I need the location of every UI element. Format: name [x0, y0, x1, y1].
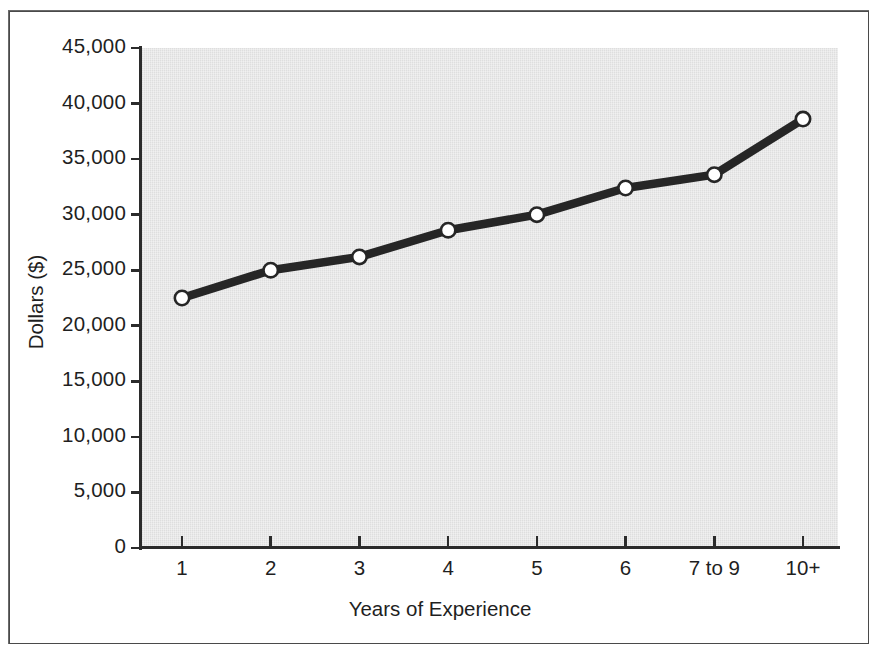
- data-point-marker: [707, 167, 721, 181]
- data-point-marker: [441, 223, 455, 237]
- line-chart: 05,00010,00015,00020,00025,00030,00035,0…: [0, 0, 880, 661]
- chart-page: 05,00010,00015,00020,00025,00030,00035,0…: [0, 0, 880, 661]
- data-series-layer: [0, 0, 880, 661]
- series-markers: [175, 112, 810, 305]
- data-point-marker: [175, 291, 189, 305]
- data-point-marker: [618, 181, 632, 195]
- data-point-marker: [530, 207, 544, 221]
- data-point-marker: [796, 112, 810, 126]
- data-point-marker: [264, 263, 278, 277]
- data-point-marker: [352, 250, 366, 264]
- x-axis-title: Years of Experience: [0, 597, 880, 621]
- y-axis-title: Dollars ($): [24, 202, 48, 402]
